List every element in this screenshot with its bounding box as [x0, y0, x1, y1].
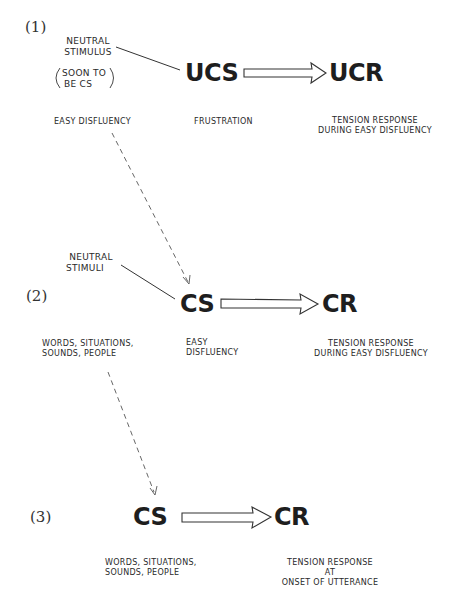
stage-3-cs: CS [133, 504, 167, 530]
caption-line: DURING EASY DISFLUENCY [310, 126, 440, 136]
hollow-arrow-cs-to-cr-stage3 [182, 507, 271, 528]
stage-1-left-caption: EASY DISFLUENCY [54, 117, 131, 127]
caption-line: WORDS, SITUATIONS, [42, 339, 134, 349]
caption-line: DURING EASY DISFLUENCY [306, 349, 436, 359]
caption-line: DISFLUENCY [186, 348, 238, 358]
connector-line-neutral-to-ucs [116, 47, 180, 70]
stage-1-ucs: UCS [185, 60, 238, 86]
caption-line: TENSION RESPONSE [306, 339, 436, 349]
neutral-note-line: BE CS [62, 79, 106, 90]
caption-line: ONSET OF UTTERANCE [270, 578, 390, 588]
stage-2-neutral-stimuli: NEUTRAL STIMULI [62, 252, 120, 274]
hollow-arrow-cs-to-cr-stage2 [221, 294, 318, 314]
paren-right [110, 68, 114, 88]
caption-line: SOUNDS, PEOPLE [42, 349, 134, 359]
stage-1-neutral-stimulus: NEUTRAL STIMULUS [60, 36, 116, 58]
dashed-arrow-line-1-to-2 [112, 133, 188, 282]
dashed-arrow-line-2-to-3 [108, 372, 154, 492]
stage-1-stimulus-caption: FRUSTRATION [194, 117, 253, 127]
stage-2-cs: CS [180, 291, 214, 317]
stage-3-stimulus-caption: WORDS, SITUATIONS, SOUNDS, PEOPLE [105, 558, 197, 578]
caption-line: TENSION RESPONSE [310, 116, 440, 126]
stage-1-neutral-note: SOON TO BE CS [62, 68, 106, 90]
stage-1-response-caption: TENSION RESPONSE DURING EASY DISFLUENCY [310, 116, 440, 136]
caption-line: TENSION RESPONSE [270, 558, 390, 568]
neutral-label-line: NEUTRAL [62, 252, 120, 263]
stage-2-stimulus-caption: EASY DISFLUENCY [186, 338, 238, 358]
stage-2-cr: CR [322, 291, 357, 317]
connector-line-neutral-to-cs [121, 265, 175, 299]
paren-left [56, 68, 60, 88]
caption-line: EASY [186, 338, 238, 348]
stage-3-cr: CR [274, 504, 309, 530]
hollow-arrow-ucs-to-ucr [244, 63, 326, 83]
stage-3-response-caption: TENSION RESPONSE AT ONSET OF UTTERANCE [270, 558, 390, 588]
caption-line: AT [270, 568, 390, 578]
stage-1-ucr: UCR [329, 60, 383, 86]
neutral-label-line: STIMULI [62, 263, 120, 274]
caption-line: SOUNDS, PEOPLE [105, 568, 197, 578]
neutral-note-line: SOON TO [62, 68, 106, 79]
caption-line: WORDS, SITUATIONS, [105, 558, 197, 568]
stage-2-response-caption: TENSION RESPONSE DURING EASY DISFLUENCY [306, 339, 436, 359]
stage-1-number: (1) [25, 18, 46, 36]
stage-2-number: (2) [26, 287, 47, 305]
neutral-label-line: NEUTRAL [60, 36, 116, 47]
neutral-label-line: STIMULUS [60, 47, 116, 58]
stage-2-left-caption: WORDS, SITUATIONS, SOUNDS, PEOPLE [42, 339, 134, 359]
stage-3-number: (3) [30, 508, 51, 526]
diagram-connectors [0, 0, 459, 610]
